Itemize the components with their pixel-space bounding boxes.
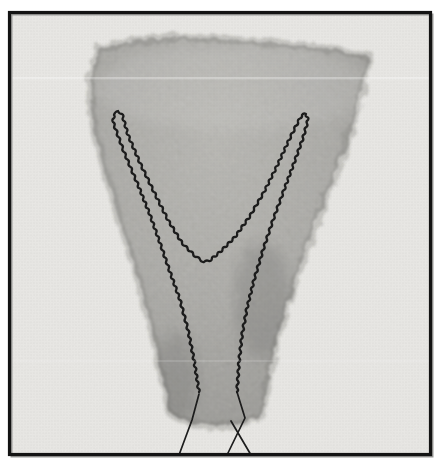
page bbox=[0, 0, 444, 467]
halftone-overlay bbox=[11, 14, 429, 454]
photo-plate bbox=[0, 0, 444, 467]
